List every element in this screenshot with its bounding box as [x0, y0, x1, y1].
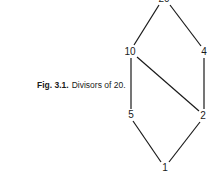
node-4: 4	[201, 47, 207, 57]
node-1: 1	[162, 163, 168, 171]
node-5: 5	[128, 110, 134, 120]
node-20: 20	[158, 0, 169, 4]
node-10: 10	[124, 47, 135, 57]
edge-20-4	[170, 5, 201, 46]
edge-2-1	[169, 122, 200, 162]
edge-5-1	[133, 121, 161, 162]
node-2: 2	[200, 111, 206, 121]
hasse-diagram	[0, 0, 216, 171]
edge-10-2	[137, 57, 199, 111]
edge-20-10	[134, 5, 159, 45]
